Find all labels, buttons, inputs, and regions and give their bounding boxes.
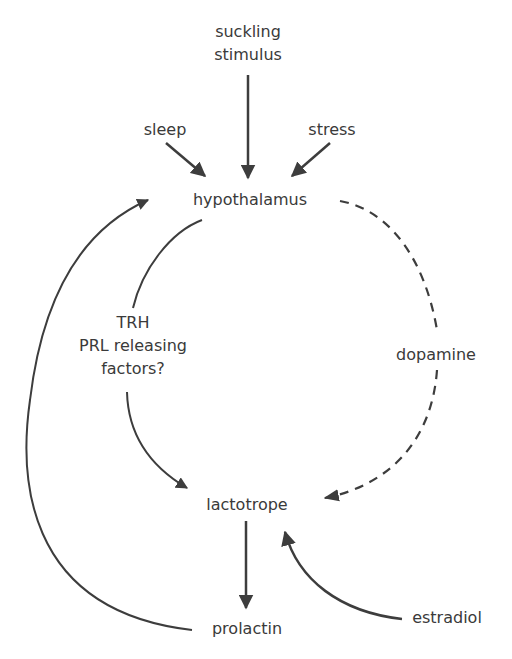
suckling-label-line1: suckling <box>214 20 282 43</box>
arrow-prolactin-feedback-to-hypothalamus <box>26 200 192 630</box>
trh-label-line1: TRH <box>79 311 187 334</box>
dashed-dopamine-to-lactotrope <box>325 370 437 498</box>
node-stress: stress <box>308 120 355 140</box>
curve-hypothalamus-to-trh <box>133 220 202 308</box>
arrow-estradiol-to-lactotrope <box>285 532 402 619</box>
diagram-edges <box>0 0 512 659</box>
node-trh-prl-releasing-factors: TRH PRL releasing factors? <box>79 311 187 380</box>
prolactin-regulation-diagram: suckling stimulus sleep stress hypothala… <box>0 0 512 659</box>
arrow-trh-to-lactotrope <box>127 392 187 488</box>
node-hypothalamus: hypothalamus <box>193 190 307 210</box>
node-estradiol: estradiol <box>412 608 482 628</box>
node-prolactin: prolactin <box>212 619 282 639</box>
arrow-sleep-to-hypothalamus <box>166 143 205 176</box>
node-sleep: sleep <box>144 120 187 140</box>
trh-label-line3: factors? <box>79 357 187 380</box>
suckling-label-line2: stimulus <box>214 43 282 66</box>
arrow-stress-to-hypothalamus <box>292 143 330 176</box>
node-lactotrope: lactotrope <box>206 495 287 515</box>
trh-label-line2: PRL releasing <box>79 334 187 357</box>
dashed-hypothalamus-to-dopamine <box>340 201 437 330</box>
node-dopamine: dopamine <box>396 345 476 365</box>
node-suckling-stimulus: suckling stimulus <box>214 20 282 66</box>
